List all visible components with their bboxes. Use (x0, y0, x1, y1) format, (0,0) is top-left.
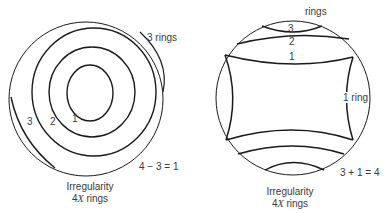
right-side-label: 1 ring (343, 92, 368, 103)
right-caption-suffix: rings (284, 198, 308, 209)
left-edge-fringe-left (11, 97, 55, 168)
right-left-curve (225, 55, 233, 140)
left-ring-2 (49, 47, 135, 137)
left-caption-title: Irregularity (40, 181, 140, 193)
right-caption: Irregularity 4X rings (240, 186, 340, 210)
right-bottom-ring-2 (238, 146, 344, 154)
left-caption-rings: 4X rings (40, 193, 140, 205)
left-ring-label-1: 1 (72, 113, 78, 124)
right-ring-label-3: 3 (288, 23, 294, 34)
right-caption-title: Irregularity (240, 186, 340, 198)
left-equation: 4 − 3 = 1 (139, 161, 178, 172)
left-caption-suffix: rings (84, 193, 108, 204)
left-side-label: 3 rings (147, 32, 177, 43)
right-bottom-ring-3 (265, 163, 324, 171)
left-ring-label-3: 3 (27, 116, 33, 127)
right-caption-rings: 4X rings (240, 198, 340, 210)
right-top-label: rings (305, 6, 327, 17)
right-ring-label-2: 2 (289, 36, 295, 47)
right-equation: 3 + 1 = 4 (340, 167, 379, 178)
left-caption: Irregularity 4X rings (40, 181, 140, 205)
left-ring-label-2: 2 (50, 116, 56, 127)
right-bottom-ring-1 (226, 130, 353, 140)
left-interferogram (9, 22, 164, 176)
right-ring-label-1: 1 (289, 51, 295, 62)
